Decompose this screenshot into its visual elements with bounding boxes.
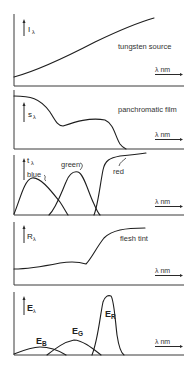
- x-axis-label: λ nm: [155, 338, 170, 345]
- x-axis-label: λ nm: [155, 198, 170, 205]
- svg-text:G: G: [78, 330, 83, 337]
- blue-label: blue: [27, 170, 41, 179]
- x-axis-label: λ nm: [155, 267, 170, 274]
- right-arrow-icon: [155, 138, 183, 141]
- eb-label: E B: [36, 336, 47, 347]
- x-axis-label: λ nm: [155, 131, 170, 138]
- y-subscript: λ: [32, 29, 35, 35]
- green-filter-curve: [49, 172, 100, 215]
- red-label: red: [113, 167, 124, 176]
- y-subscript: λ: [31, 160, 34, 166]
- exposure-red-curve: [92, 296, 124, 355]
- y-subscript: λ: [33, 308, 36, 314]
- green-label: green: [61, 160, 80, 169]
- panel-exposure: E λ E B E G E R λ nm: [14, 292, 184, 355]
- panel-illuminant: I λ tungsten source λ nm: [14, 14, 184, 86]
- panel-subject-reflectance: R λ flesh tint λ nm: [14, 222, 184, 285]
- up-arrow-icon: [23, 19, 26, 36]
- up-arrow-icon: [23, 296, 26, 315]
- y-symbol: s: [28, 110, 32, 119]
- up-arrow-icon: [23, 158, 26, 180]
- up-arrow-icon: [23, 102, 26, 122]
- y-subscript: λ: [33, 236, 36, 242]
- panchromatic-curve: [14, 96, 126, 149]
- y-symbol: I: [28, 25, 30, 34]
- spectral-diagram: I λ tungsten source λ nm s λ panchromati…: [0, 0, 194, 369]
- y-subscript: λ: [33, 114, 36, 120]
- red-leader: [119, 158, 126, 166]
- eg-label: E G: [72, 326, 83, 337]
- red-filter-curve: [94, 153, 146, 215]
- caption: panchromatic film: [118, 105, 177, 114]
- svg-text:R: R: [111, 313, 116, 320]
- panel-film-sensitivity: s λ panchromatic film λ nm: [14, 90, 184, 149]
- caption: tungsten source: [118, 42, 171, 51]
- right-arrow-icon: [155, 345, 183, 348]
- right-arrow-icon: [155, 205, 183, 208]
- up-arrow-icon: [23, 225, 26, 243]
- right-arrow-icon: [155, 73, 183, 76]
- panel-filter-transmission: t λ blue green red λ nm: [14, 153, 184, 215]
- svg-text:B: B: [42, 340, 47, 347]
- caption: flesh tint: [120, 234, 149, 243]
- green-leader: [80, 163, 82, 170]
- exposure-blue-curve: [14, 347, 66, 355]
- y-symbol: t: [27, 156, 30, 165]
- right-arrow-icon: [155, 274, 183, 277]
- x-axis-label: λ nm: [155, 66, 170, 73]
- blue-leader: [44, 175, 46, 181]
